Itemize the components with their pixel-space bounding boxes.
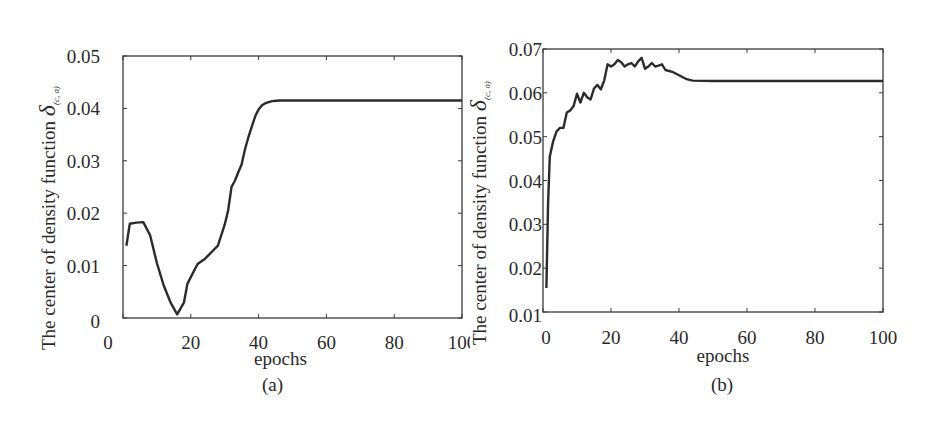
data-line <box>126 101 462 315</box>
x-tick-label: 100 <box>869 327 898 348</box>
x-tick-label: 40 <box>670 327 689 348</box>
plot-frame <box>123 56 462 318</box>
x-axis-label: epochs <box>697 345 750 366</box>
y-tick-label: 0 <box>91 311 101 332</box>
y-tick-label: 0.05 <box>67 46 100 67</box>
x-tick-label: 80 <box>385 332 404 353</box>
x-tick-label: 100 <box>448 332 470 353</box>
svg-text:The center of density function: The center of density function δ(c, σ) <box>34 86 61 350</box>
y-tick-label: 0.01 <box>67 256 100 277</box>
chart-panel-b: 0204060801000.010.020.030.040.050.060.07… <box>470 0 939 425</box>
svg-text:The center of density function: The center of density function δ(c, σ) <box>470 81 492 345</box>
y-tick-label: 0.01 <box>509 305 542 326</box>
y-tick-label: 0.03 <box>67 151 100 172</box>
x-tick-label: 0 <box>103 332 113 353</box>
y-tick-label: 0.07 <box>509 39 542 60</box>
x-tick-label: 20 <box>181 332 200 353</box>
x-tick-label: 20 <box>602 327 621 348</box>
y-tick-label: 0.06 <box>509 83 542 104</box>
panel-a-caption: (a) <box>262 374 283 396</box>
x-tick-label: 0 <box>541 327 551 348</box>
y-axis-label: The center of density function δ(c, σ) <box>34 86 61 350</box>
y-tick-label: 0.02 <box>67 203 100 224</box>
x-axis-label: epochs <box>254 348 307 369</box>
x-tick-label: 80 <box>806 327 825 348</box>
y-tick-label: 0.04 <box>509 171 543 192</box>
data-line <box>546 58 883 288</box>
panel-b-caption: (b) <box>711 374 733 396</box>
y-axis-label: The center of density function δ(c, σ) <box>470 81 492 345</box>
chart-panel-a: 02040608010000.010.020.030.040.05epochsT… <box>0 0 470 425</box>
y-tick-label: 0.02 <box>509 258 542 279</box>
y-tick-label: 0.04 <box>67 98 101 119</box>
y-tick-label: 0.03 <box>509 214 542 235</box>
x-tick-label: 60 <box>317 332 336 353</box>
y-tick-label: 0.05 <box>509 127 542 148</box>
